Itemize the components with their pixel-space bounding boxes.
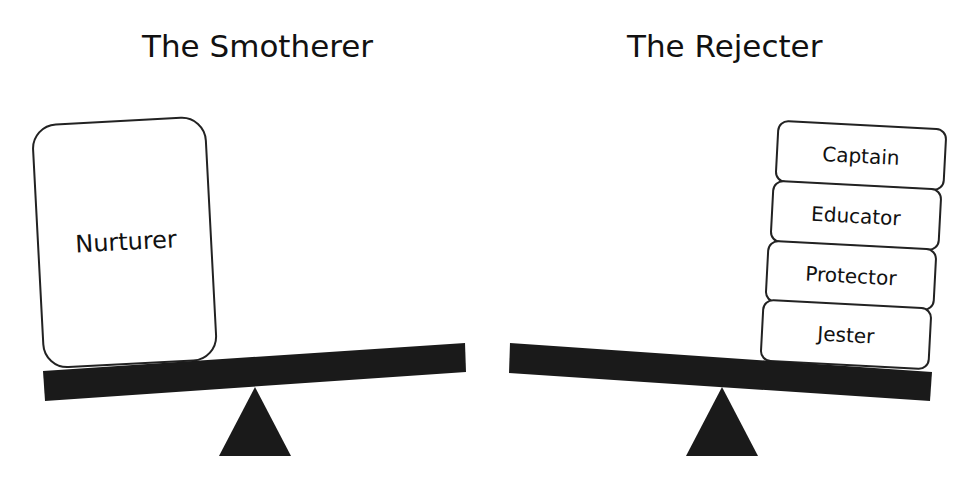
right-fulcrum — [686, 387, 758, 456]
right-seesaw: Captain Educator Protector Jester — [509, 121, 946, 456]
weight-box-educator: Educator — [770, 181, 941, 251]
weight-box-captain: Captain — [775, 121, 946, 191]
weight-box-protector: Protector — [765, 241, 936, 311]
left-seesaw: Nurturer — [32, 117, 466, 456]
weight-box-jester: Jester — [760, 300, 931, 370]
seesaw-diagram: Nurturer Captain Educator Protector Jest… — [0, 0, 964, 478]
weight-box-nurturer: Nurturer — [32, 117, 217, 369]
weight-label: Protector — [805, 262, 898, 291]
weight-label: Educator — [811, 202, 902, 231]
weight-label: Jester — [815, 321, 876, 348]
left-fulcrum — [219, 387, 291, 456]
weight-label: Nurturer — [75, 225, 178, 258]
weight-label: Captain — [822, 142, 900, 170]
